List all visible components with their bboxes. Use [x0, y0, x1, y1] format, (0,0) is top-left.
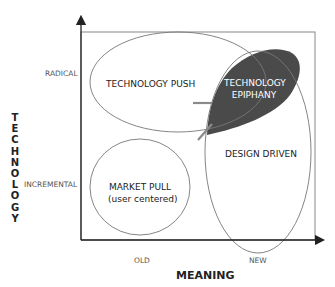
y-title-letter: Y	[9, 213, 21, 224]
x-tick-old: OLD	[134, 256, 150, 265]
y-title-letter: C	[9, 134, 21, 145]
y-title-letter: E	[9, 123, 21, 134]
y-title-letter: G	[9, 202, 21, 213]
y-title-letter: T	[9, 112, 21, 123]
y-title-letter: O	[9, 190, 21, 201]
technology-push-label: TECHNOLOGY PUSH	[106, 78, 195, 90]
y-axis-title: T E C H N O L O G Y	[9, 112, 21, 224]
market-pull-label: MARKET PULL (user centered)	[108, 181, 172, 205]
y-title-letter: L	[9, 179, 21, 190]
y-title-letter: O	[9, 168, 21, 179]
y-tick-radical: RADICAL	[45, 69, 78, 78]
y-title-letter: N	[9, 157, 21, 168]
design-driven-label: DESIGN DRIVEN	[225, 148, 297, 160]
epiphany-line1: TECHNOLOGY	[224, 77, 284, 89]
technology-epiphany-label: TECHNOLOGY EPIPHANY	[224, 77, 284, 101]
x-tick-new: NEW	[249, 256, 267, 265]
y-title-letter: H	[9, 146, 21, 157]
x-axis-title: MEANING	[176, 269, 235, 282]
y-tick-incremental: INCREMENTAL	[24, 180, 77, 189]
market-pull-line1: MARKET PULL	[108, 181, 172, 193]
epiphany-line2: EPIPHANY	[224, 89, 284, 101]
market-pull-line2: (user centered)	[108, 193, 172, 205]
diagram-canvas	[0, 0, 335, 287]
